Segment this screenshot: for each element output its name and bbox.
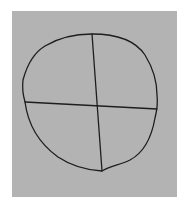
paper-background bbox=[12, 11, 177, 197]
sketch-canvas bbox=[0, 0, 188, 210]
